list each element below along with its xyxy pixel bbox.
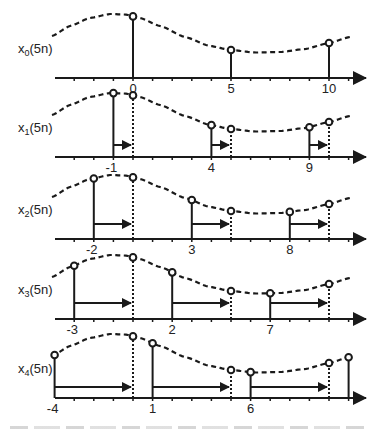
signal-label: x4(5n) <box>18 361 53 378</box>
tick-label: 9 <box>306 160 313 175</box>
sample-circle <box>130 333 137 340</box>
sample-circle <box>228 126 235 133</box>
sample-circle <box>130 174 137 181</box>
sample-circle <box>130 92 137 99</box>
sample-circle <box>91 175 98 182</box>
continuous-envelope-curve <box>52 93 350 132</box>
sample-circle <box>247 369 254 376</box>
tick-label: 7 <box>267 322 274 337</box>
signal-row-3: -327x3(5n) <box>18 254 366 337</box>
continuous-envelope-curve <box>52 334 350 373</box>
sample-circle <box>189 197 196 204</box>
signal-row-2: -238x2(5n) <box>18 174 366 257</box>
sample-circle <box>71 262 78 269</box>
tick-label: 5 <box>227 81 234 96</box>
sample-circle <box>287 209 294 216</box>
tick-label: 1 <box>149 401 156 416</box>
tick-label: 2 <box>169 322 176 337</box>
polyphase-figure: 0510x0(5n)-149x1(5n)-238x2(5n)-327x3(5n)… <box>0 0 385 431</box>
sample-circle <box>149 340 156 347</box>
sample-circle <box>326 40 333 47</box>
sample-circle <box>51 352 58 359</box>
sample-circle <box>326 119 333 126</box>
sample-circle <box>169 269 176 276</box>
figure-caption-cropped <box>0 421 385 431</box>
sample-circle <box>130 254 137 261</box>
tick-label: -2 <box>86 242 98 257</box>
sample-circle <box>345 354 352 361</box>
tick-label: 8 <box>286 242 293 257</box>
sample-circle <box>326 201 333 208</box>
sample-circle <box>267 290 274 297</box>
sample-circle <box>228 367 235 374</box>
tick-label: 10 <box>322 81 336 96</box>
sample-circle <box>228 47 235 54</box>
tick-label: 4 <box>208 160 215 175</box>
sample-circle <box>130 13 137 20</box>
sample-circle <box>228 208 235 215</box>
signal-label: x3(5n) <box>18 282 53 299</box>
sample-circle <box>110 90 117 97</box>
signal-row-0: 0510x0(5n) <box>18 13 366 96</box>
sample-circle <box>208 122 215 129</box>
tick-label: 6 <box>247 401 254 416</box>
signal-label: x1(5n) <box>18 120 53 137</box>
tick-label: -1 <box>106 160 118 175</box>
signal-label: x0(5n) <box>18 41 53 58</box>
signal-label: x2(5n) <box>18 202 53 219</box>
sample-circle <box>306 124 313 131</box>
sample-circle <box>326 360 333 367</box>
sample-circle <box>228 288 235 295</box>
continuous-envelope-curve <box>52 14 350 53</box>
continuous-envelope-curve <box>52 255 350 294</box>
tick-label: 3 <box>188 242 195 257</box>
signal-row-1: -149x1(5n) <box>18 90 366 175</box>
signal-row-4: -416x4(5n) <box>18 333 366 416</box>
tick-label: -4 <box>47 401 59 416</box>
sample-circle <box>326 281 333 288</box>
tick-label: -3 <box>66 322 78 337</box>
